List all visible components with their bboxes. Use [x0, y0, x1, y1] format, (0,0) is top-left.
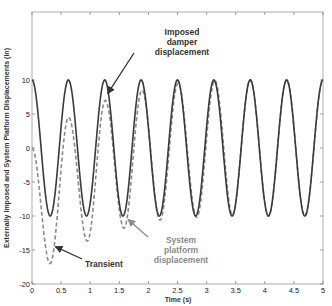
x-tick-label: 2	[146, 286, 150, 295]
y-tick-label: -20	[19, 280, 30, 289]
y-tick-label: 5	[26, 110, 30, 119]
annotation-text: System	[166, 235, 197, 245]
annotation-text: Transient	[85, 259, 123, 269]
x-tick-label: 0	[30, 286, 34, 295]
x-tick-label: 4.5	[289, 286, 299, 295]
x-axis-label: Time (s)	[165, 296, 192, 304]
x-tick-label: 1.5	[114, 286, 124, 295]
y-tick-label: 0	[26, 144, 30, 153]
x-tick-label: 4	[263, 286, 267, 295]
x-tick-label: 5	[321, 286, 325, 295]
y-axis-label: Externally Imposed and System Platform D…	[3, 48, 11, 248]
x-tick-label: 2.5	[172, 286, 182, 295]
annotation-text: displacement	[155, 47, 209, 57]
displacement-chart: 00.511.522.533.544.55-20-15-10-50510 Imp…	[0, 0, 332, 306]
annotation-text: displacement	[154, 255, 208, 265]
y-tick-label: -15	[19, 246, 30, 255]
x-tick-label: 1	[88, 286, 92, 295]
annotation-text: damper	[167, 37, 198, 47]
x-tick-label: 0.5	[56, 286, 66, 295]
annotation-text: platform	[164, 245, 198, 255]
y-tick-label: 10	[22, 76, 30, 85]
annotation-text: Imposed	[165, 27, 200, 37]
y-tick-label: -5	[23, 178, 30, 187]
y-tick-label: -10	[19, 212, 30, 221]
x-tick-label: 3.5	[230, 286, 240, 295]
x-tick-label: 3	[205, 286, 209, 295]
